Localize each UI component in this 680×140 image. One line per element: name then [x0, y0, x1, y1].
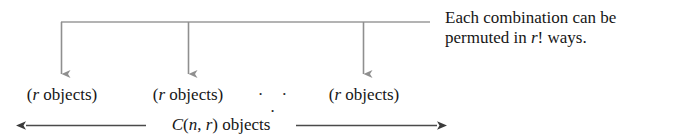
- annotation-line-2: permuted in r! ways.: [445, 28, 675, 48]
- group-2-close-paren: ): [218, 85, 224, 104]
- annotation-line-1: Each combination can be: [445, 8, 675, 28]
- group-3-noun: objects: [341, 85, 393, 104]
- annotation-text: Each combination can be permuted in r! w…: [445, 8, 675, 48]
- annotation-line-2-prefix: permuted in: [445, 28, 531, 47]
- group-3-close-paren: ): [394, 85, 400, 104]
- total-comma: ,: [197, 115, 206, 134]
- annotation-variable-r: r: [531, 28, 538, 47]
- total-count-label: C(n, r) objects: [146, 116, 296, 133]
- group-1-close-paren: ): [92, 85, 98, 104]
- annotation-line-2-suffix: ! ways.: [538, 28, 587, 47]
- group-1-noun: objects: [39, 85, 91, 104]
- total-arg-n: n: [189, 115, 198, 134]
- group-label-2: (r objects): [126, 86, 250, 103]
- group-label-3: (r objects): [302, 86, 426, 103]
- group-2-noun: objects: [165, 85, 217, 104]
- total-noun: objects: [218, 115, 270, 134]
- combination-function-symbol: C: [172, 115, 183, 134]
- combinations-permutations-diagram: (r objects) (r objects) · · · (r objects…: [0, 0, 680, 140]
- group-label-1: (r objects): [0, 86, 124, 103]
